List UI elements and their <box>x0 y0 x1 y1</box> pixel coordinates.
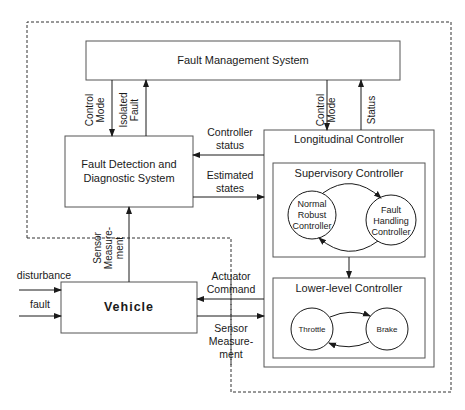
longitudinal-title: Longitudinal Controller <box>264 133 434 145</box>
sensor-measurement-vertical-label: Sensor Measure- ment <box>92 223 126 273</box>
actuator-command-label: Actuator Command <box>198 270 264 296</box>
normal-label-3: Controller <box>288 221 336 232</box>
controller-status-label: Controller status <box>196 126 264 152</box>
brake-label: Brake <box>366 324 408 335</box>
lower-level-title: Lower-level Controller <box>273 282 425 294</box>
fault-label-3: Controller <box>366 227 416 238</box>
fault-input-label: fault <box>20 298 60 311</box>
control-mode-right-label: Control Mode <box>315 90 339 130</box>
fdd-title-line2: Diagnostic System <box>65 172 193 184</box>
sensor-measurement-label: Sensor Measure- ment <box>198 322 264 361</box>
supervisory-title: Supervisory Controller <box>273 167 425 179</box>
vehicle-title: Vehicle <box>61 300 197 314</box>
normal-label-1: Normal <box>288 199 336 210</box>
estimated-states-label: Estimated states <box>196 169 264 195</box>
isolated-fault-label: Isolated Fault <box>118 90 142 130</box>
fault-management-title: Fault Management System <box>86 54 400 66</box>
fault-label-1: Fault <box>366 205 416 216</box>
fault-label-2: Handling <box>366 216 416 227</box>
fdd-title-line1: Fault Detection and <box>65 158 193 170</box>
throttle-label: Throttle <box>291 324 333 335</box>
control-mode-left-label: Control Mode <box>84 90 108 130</box>
normal-label-2: Robust <box>288 210 336 221</box>
status-label: Status <box>366 93 378 127</box>
disturbance-label: disturbance <box>14 269 74 282</box>
